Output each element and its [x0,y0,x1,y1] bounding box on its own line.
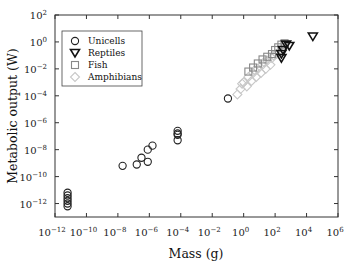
x-tick-label: 102 [264,226,281,238]
y-axis-title: Metabolic output (W) [5,48,20,183]
legend-label: Reptiles [88,48,126,58]
x-tick-label: 106 [326,226,344,238]
legend-label: Unicells [88,36,125,46]
x-tick-label: 10−10 [70,226,98,238]
y-tick-label: 10−6 [24,117,48,129]
unicells-point [144,158,151,165]
y-tick-label: 10−2 [24,63,47,75]
y-tick-label: 102 [30,9,47,21]
y-tick-label: 10−4 [24,90,48,102]
legend: UnicellsReptilesFishAmphibians [62,31,142,86]
legend-label: Amphibians [87,72,142,82]
unicells-point [133,161,140,168]
unicells-point [119,162,126,169]
unicells-point [149,142,156,149]
x-tick-label: 10−8 [103,226,126,238]
x-tick-label: 104 [295,226,313,238]
scatter-chart: 10−1210−1010−810−610−410−2100102104106 1… [0,0,352,267]
x-tick-label: 10−4 [166,226,190,238]
y-tick-label: 10−10 [19,171,47,183]
amphibians-point [233,90,242,99]
x-tick-label: 10−12 [38,226,66,238]
x-axis-title: Mass (g) [169,246,224,261]
legend-label: Fish [88,60,108,70]
y-tick-label: 10−12 [19,198,47,210]
unicells-point [224,95,231,102]
y-tick-label: 10−8 [24,144,47,156]
x-tick-label: 100 [232,226,249,238]
unicells-point [144,146,151,153]
unicells-point [174,137,181,144]
reptiles-point [308,33,317,41]
y-tick-label: 100 [30,36,47,48]
x-tick-label: 10−2 [198,226,221,238]
x-tick-label: 10−6 [135,226,159,238]
